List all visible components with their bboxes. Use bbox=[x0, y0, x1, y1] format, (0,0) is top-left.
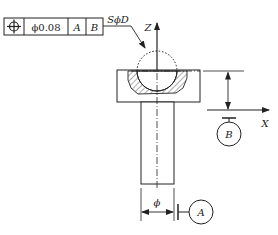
datum-secondary: B bbox=[90, 22, 98, 33]
x-axis-label: X bbox=[260, 118, 269, 129]
datum-a-label: A bbox=[196, 207, 204, 218]
position-icon bbox=[7, 20, 21, 34]
height-dimension bbox=[203, 71, 244, 109]
datum-a-symbol: A bbox=[178, 200, 213, 224]
gdt-drawing: ϕ0.08 A B SϕD Z X B bbox=[0, 0, 278, 235]
feature-control-frame: ϕ0.08 A B bbox=[4, 18, 103, 35]
datum-primary: A bbox=[72, 22, 80, 33]
shaft bbox=[141, 102, 174, 184]
tolerance-value: ϕ0.08 bbox=[31, 22, 60, 33]
leader-line: SϕD bbox=[103, 14, 145, 48]
datum-b-symbol: B bbox=[217, 118, 241, 146]
z-axis: Z bbox=[144, 22, 157, 71]
z-axis-label: Z bbox=[144, 22, 153, 33]
datum-b-label: B bbox=[224, 129, 232, 140]
shaft-diameter-label: ϕ bbox=[154, 197, 161, 208]
shaft-diameter-dimension: ϕ bbox=[141, 188, 174, 221]
sphere-diameter-label: SϕD bbox=[107, 14, 129, 25]
